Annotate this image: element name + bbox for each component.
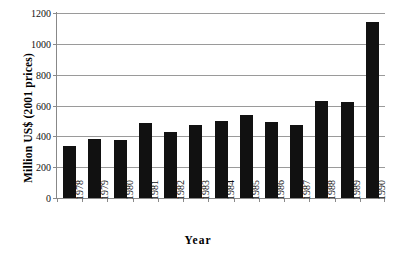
- x-tick-label-1984: 1984: [225, 180, 236, 200]
- y-tick-label-400: 400: [36, 131, 51, 142]
- x-tick-label-1987: 1987: [301, 180, 312, 200]
- x-tick-label-1981: 1981: [149, 180, 160, 200]
- x-tick-label-1983: 1983: [200, 180, 211, 200]
- y-tick-label-800: 800: [36, 69, 51, 80]
- x-tick-label-1986: 1986: [275, 180, 286, 200]
- x-tick-label-1988: 1988: [326, 180, 337, 200]
- x-tick-label-1978: 1978: [74, 180, 85, 200]
- y-axis-title: Million US$ (2001 prices): [22, 28, 34, 208]
- y-tick-label-0: 0: [46, 193, 51, 204]
- bar-series: [57, 13, 385, 198]
- bar-1990: [366, 22, 379, 198]
- y-tick-label-1000: 1000: [31, 38, 51, 49]
- x-tick-label-1989: 1989: [351, 180, 362, 200]
- x-tick-label-1979: 1979: [99, 180, 110, 200]
- bar-chart: Million US$ (2001 prices) 02004006008001…: [0, 0, 396, 256]
- y-tick-label-600: 600: [36, 100, 51, 111]
- x-tick-label-1985: 1985: [250, 180, 261, 200]
- x-tick-label-1982: 1982: [175, 180, 186, 200]
- x-axis-title: Year: [0, 234, 396, 246]
- plot-area: 020040060080010001200: [57, 13, 385, 198]
- x-tick-label-1990: 1990: [376, 180, 387, 200]
- y-tick-label-1200: 1200: [31, 8, 51, 19]
- y-tick-label-200: 200: [36, 162, 51, 173]
- x-tick-label-1980: 1980: [124, 180, 135, 200]
